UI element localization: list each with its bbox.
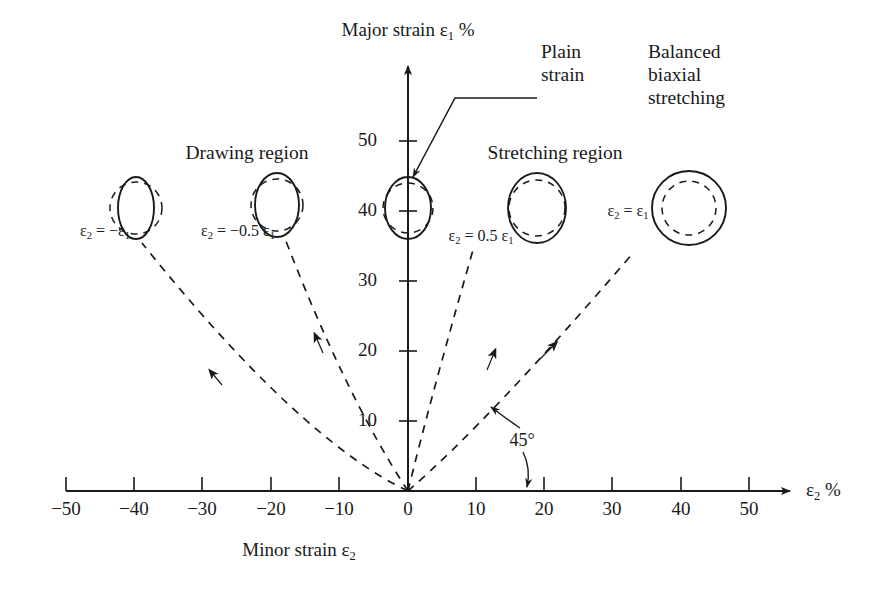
x-axis (66, 477, 790, 491)
plain-strain-label: Plain strain (541, 40, 584, 86)
x-tick-label-50: 50 (740, 498, 759, 520)
angle-45-leader-down (523, 452, 528, 487)
equation-uniaxial: ε2 = −ε1 (80, 222, 130, 242)
y-tick-label-30: 30 (358, 269, 377, 291)
grid-circle-balanced-biaxial (652, 171, 726, 245)
plain-strain-label-line1: Plain (541, 40, 584, 63)
angle-45-leader-up (491, 407, 520, 428)
x-axis-title: Minor strain ε2 (242, 539, 355, 563)
x-tick-label-neg10: −10 (324, 498, 354, 520)
x-tick-label-0: 0 (403, 498, 413, 520)
stretching-region-label: Stretching region (488, 141, 623, 164)
x-tick-label-20: 20 (535, 498, 554, 520)
balanced-biaxial-line1: Balanced (648, 40, 725, 63)
path-arrow-stretching (487, 353, 494, 370)
y-axis-title: Major strain ε1 % (342, 19, 475, 43)
original-circle-stretching (509, 180, 565, 236)
path-arrow-balanced (540, 345, 554, 359)
equation-drawing: ε2 = −0.5 ε1 (201, 222, 275, 242)
grid-ellipse-stretching (508, 173, 566, 243)
drawing-region-label: Drawing region (186, 141, 309, 164)
x-tick-label-40: 40 (672, 498, 691, 520)
balanced-biaxial-label: Balanced biaxial stretching (648, 40, 725, 109)
plain-strain-label-line2: strain (541, 63, 584, 86)
y-tick-label-40: 40 (358, 199, 377, 221)
path-arrow-drawing (316, 337, 323, 353)
balanced-biaxial-line3: stretching (648, 86, 725, 109)
x-tick-label-30: 30 (603, 498, 622, 520)
strain-path-balanced-biaxial (408, 253, 633, 491)
x-axis-end-label: ε2 % (806, 479, 841, 503)
strain-path-deep-drawing (284, 236, 408, 491)
deformed-ellipse-stretching (508, 173, 566, 243)
strain-paths (142, 236, 633, 491)
x-tick-label-neg30: −30 (187, 498, 217, 520)
equation-stretching: ε2 = 0.5 ε1 (448, 227, 513, 247)
equation-balanced: ε2 = ε1 (607, 202, 648, 222)
forming-limit-diagram: Major strain ε1 % Minor strain ε2 ε2 % −… (0, 0, 878, 591)
strain-path-arrowheads (212, 337, 554, 385)
original-circle-balanced (662, 181, 716, 235)
plain-strain-leader-line (413, 98, 537, 177)
plain-strain-leader (413, 98, 537, 177)
y-axis (399, 66, 417, 491)
x-tick-label-neg50: −50 (51, 498, 81, 520)
y-tick-label-20: 20 (358, 339, 377, 361)
angle-45-label: 45° (509, 430, 534, 451)
strain-path-biaxial-stretching (408, 250, 473, 491)
x-tick-label-10: 10 (467, 498, 486, 520)
x-tick-label-neg40: −40 (119, 498, 149, 520)
x-tick-label-neg20: −20 (256, 498, 286, 520)
y-tick-label-50: 50 (358, 129, 377, 151)
y-tick-label-10: 10 (358, 409, 377, 431)
balanced-biaxial-line2: biaxial (648, 63, 725, 86)
deformed-circle-balanced (652, 171, 726, 245)
path-arrow-uniaxial (212, 373, 222, 385)
